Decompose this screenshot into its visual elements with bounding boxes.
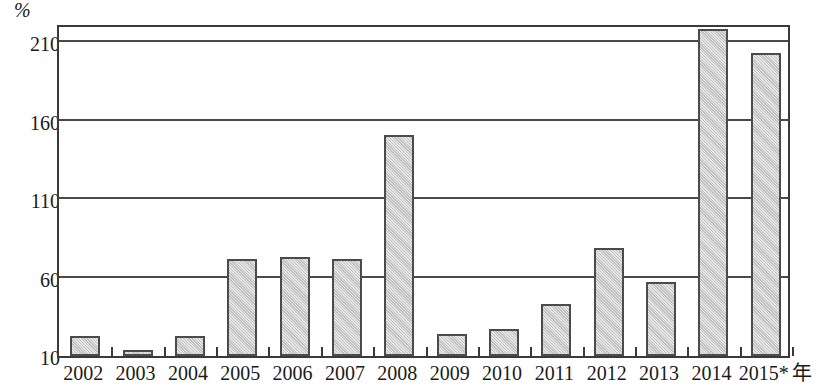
bar-2003 [123, 350, 153, 356]
x-tick-label-2002: 2002 [57, 361, 109, 385]
x-tick-7 [478, 347, 480, 356]
bar-2002 [70, 336, 100, 356]
x-tick-label-2015-est: 2015* [738, 361, 790, 385]
bar-2015-est [751, 53, 781, 356]
x-tick-2 [216, 347, 218, 356]
x-tick-13 [792, 347, 794, 356]
x-tick-4 [321, 347, 323, 356]
bar-2013 [646, 282, 676, 356]
y-tick-label-210: 210 [8, 34, 60, 54]
bar-2012 [594, 248, 624, 356]
gridline-110 [59, 197, 788, 199]
x-tick-label-2010: 2010 [476, 361, 528, 385]
bar-2011 [541, 304, 571, 356]
x-tick-1 [164, 347, 166, 356]
bar-2014 [698, 29, 728, 356]
bar-2004 [175, 336, 205, 356]
x-tick-label-2003: 2003 [109, 361, 161, 385]
x-tick-8 [530, 347, 532, 356]
bar-2009 [437, 334, 467, 356]
x-tick-3 [268, 347, 270, 356]
x-tick-label-2007: 2007 [319, 361, 371, 385]
plot-area [57, 25, 790, 358]
gridline-160 [59, 119, 788, 121]
x-tick-5 [373, 347, 375, 356]
y-tick-label-10: 10 [8, 348, 60, 368]
x-tick-0 [111, 347, 113, 356]
x-tick-label-2009: 2009 [424, 361, 476, 385]
x-tick-label-2008: 2008 [371, 361, 423, 385]
x-tick-label-2014: 2014 [685, 361, 737, 385]
x-tick-11 [687, 347, 689, 356]
y-tick-label-110: 110 [8, 191, 60, 211]
bar-2005 [227, 259, 257, 356]
bar-chart: % 2101601106010 200220032004200520062007… [0, 0, 826, 389]
x-axis-unit-label: 年 [792, 361, 812, 385]
bar-2007 [332, 259, 362, 356]
x-tick-label-2013: 2013 [633, 361, 685, 385]
x-tick-label-2005: 2005 [214, 361, 266, 385]
bar-2006 [280, 257, 310, 356]
x-tick-label-2006: 2006 [266, 361, 318, 385]
bar-2010 [489, 329, 519, 356]
x-tick-6 [426, 347, 428, 356]
x-tick-label-2004: 2004 [162, 361, 214, 385]
x-tick-label-2012: 2012 [581, 361, 633, 385]
y-tick-label-60: 60 [8, 270, 60, 290]
gridline-60 [59, 276, 788, 278]
gridline-210 [59, 40, 788, 42]
x-tick-12 [740, 347, 742, 356]
x-tick-label-2011: 2011 [528, 361, 580, 385]
bar-2008 [384, 135, 414, 356]
x-tick-10 [635, 347, 637, 356]
y-axis-unit-label: % [14, 0, 31, 22]
y-tick-label-160: 160 [8, 113, 60, 133]
x-tick-9 [583, 347, 585, 356]
